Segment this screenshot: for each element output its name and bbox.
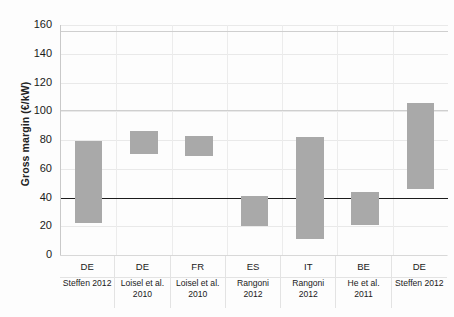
x-axis-source-label: He et al. 2011 [336, 278, 390, 300]
x-axis-source-label: Loisel et al. 2010 [171, 278, 225, 300]
y-tick-80: 80 [2, 133, 52, 145]
x-axis-country-label: DE [392, 261, 447, 272]
reference-line-156 [61, 31, 448, 33]
gridline-160 [61, 25, 448, 26]
x-axis-source-label: Rangoni 2012 [226, 278, 280, 300]
x-axis-country-label: ES [226, 261, 280, 272]
bar-undefined-6 [407, 103, 435, 189]
x-axis-cell-3: ESRangoni 2012 [226, 256, 281, 308]
gridline-60 [61, 169, 448, 170]
bar-undefined-0 [75, 141, 103, 223]
x-axis-label-table: DESteffen 2012DELoisel et al. 2010FRLois… [60, 255, 447, 307]
plot-area [60, 25, 447, 255]
bar-undefined-4 [296, 137, 324, 239]
x-axis-country-label: BE [336, 261, 390, 272]
x-axis-row-divider [60, 277, 447, 278]
x-axis-cell-6: DESteffen 2012 [392, 256, 447, 308]
y-tick-160: 160 [2, 18, 52, 30]
category-separator [172, 25, 173, 255]
gridline-140 [61, 54, 448, 55]
bar-undefined-1 [130, 131, 158, 154]
x-axis-country-label: FR [171, 261, 225, 272]
x-axis-cell-1: DELoisel et al. 2010 [115, 256, 170, 308]
x-axis-country-label: DE [60, 261, 114, 272]
y-tick-120: 120 [2, 76, 52, 88]
x-axis-cell-5: BEHe et al. 2011 [336, 256, 391, 308]
bar-undefined-2 [185, 136, 213, 156]
x-axis-country-label: DE [115, 261, 169, 272]
x-axis-cell-4: ITRangoni 2012 [281, 256, 336, 308]
gridline-20 [61, 226, 448, 227]
bar-undefined-5 [351, 192, 379, 225]
bar-undefined-3 [241, 196, 269, 226]
x-axis-source-label: Loisel et al. 2010 [115, 278, 169, 300]
x-axis-source-label: Rangoni 2012 [281, 278, 335, 300]
gridline-100 [61, 111, 448, 112]
x-axis-source-label: Steffen 2012 [392, 278, 447, 289]
x-axis-cell-2: FRLoisel et al. 2010 [171, 256, 226, 308]
y-axis-tick-labels: 020406080100120140160 [0, 25, 56, 255]
gridline-80 [61, 140, 448, 141]
category-separator [393, 25, 394, 255]
chart-figure: Gross margin (€/kW) 02040608010012014016… [0, 0, 454, 317]
reference-line-101 [61, 110, 448, 112]
y-tick-40: 40 [2, 191, 52, 203]
x-axis-cell-0: DESteffen 2012 [60, 256, 115, 308]
category-separator [282, 25, 283, 255]
y-tick-0: 0 [2, 248, 52, 260]
y-tick-100: 100 [2, 104, 52, 116]
category-separator [116, 25, 117, 255]
y-tick-140: 140 [2, 47, 52, 59]
x-axis-source-label: Steffen 2012 [60, 278, 114, 289]
x-axis-country-label: IT [281, 261, 335, 272]
category-separator [227, 25, 228, 255]
y-tick-20: 20 [2, 219, 52, 231]
category-separator [337, 25, 338, 255]
y-tick-60: 60 [2, 162, 52, 174]
gridline-120 [61, 83, 448, 84]
